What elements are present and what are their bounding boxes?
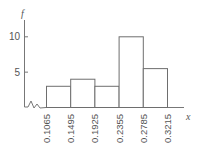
histogram-bar bbox=[95, 86, 119, 107]
x-tick-label: 0.1495 bbox=[65, 114, 76, 143]
x-tick-label: 0.2355 bbox=[114, 114, 125, 143]
histogram-bar bbox=[143, 69, 167, 108]
y-tick-label: 10 bbox=[9, 31, 21, 42]
x-tick-label: 0.1925 bbox=[89, 114, 100, 143]
y-ticks: 510 bbox=[9, 31, 28, 77]
histogram-bars bbox=[47, 37, 168, 108]
y-axis-label: f bbox=[21, 8, 25, 19]
x-tick-label: 0.3215 bbox=[162, 114, 173, 143]
histogram-bar bbox=[119, 37, 143, 108]
histogram-chart: f 510 x 0.10650.14950.19250.23550.27850.… bbox=[0, 0, 201, 152]
y-tick-label: 5 bbox=[14, 67, 20, 78]
x-axis-break-icon bbox=[25, 101, 47, 108]
histogram-bar bbox=[71, 79, 95, 107]
x-tick-labels: 0.10650.14950.19250.23550.27850.3215 bbox=[41, 114, 173, 143]
x-tick-label: 0.1065 bbox=[41, 114, 52, 143]
histogram-bar bbox=[47, 86, 71, 107]
x-tick-label: 0.2785 bbox=[138, 114, 149, 143]
x-axis-label: x bbox=[185, 111, 191, 122]
